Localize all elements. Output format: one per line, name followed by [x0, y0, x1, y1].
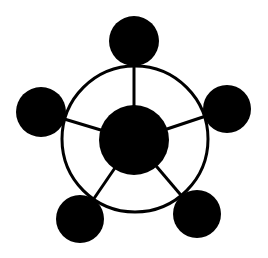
hub-node	[99, 105, 169, 175]
node-bottom-right	[173, 190, 221, 238]
node-bottom-left	[56, 195, 104, 243]
node-top	[109, 16, 159, 66]
hub-spoke-diagram-canvas	[0, 0, 268, 258]
node-right	[203, 85, 251, 133]
network-diagram	[0, 0, 268, 258]
node-left	[16, 87, 66, 137]
nodes-layer	[16, 16, 251, 243]
